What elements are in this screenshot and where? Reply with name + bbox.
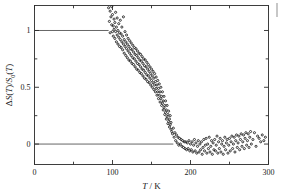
- data-point: [142, 75, 144, 77]
- data-point: [150, 84, 152, 86]
- data-point: [135, 60, 137, 62]
- data-point: [239, 149, 241, 151]
- data-point: [221, 140, 223, 142]
- data-point: [191, 141, 193, 143]
- data-point: [109, 10, 111, 12]
- data-point: [222, 153, 224, 155]
- data-point: [125, 54, 127, 56]
- data-point: [111, 31, 113, 33]
- data-point: [203, 138, 205, 140]
- data-point: [160, 86, 162, 88]
- data-point: [168, 120, 170, 122]
- data-point: [164, 113, 166, 115]
- data-point: [237, 142, 239, 144]
- data-point: [156, 94, 158, 96]
- data-point: [250, 143, 252, 145]
- data-point: [206, 152, 208, 154]
- data-point: [115, 11, 117, 13]
- data-point: [125, 41, 127, 43]
- data-point: [125, 34, 127, 36]
- data-point: [151, 86, 153, 88]
- data-point: [261, 134, 263, 136]
- data-point: [154, 91, 156, 93]
- data-point: [111, 14, 113, 16]
- data-point: [133, 51, 135, 53]
- data-point: [130, 54, 132, 56]
- data-point: [149, 66, 151, 68]
- data-point: [186, 142, 188, 144]
- y-axis-title: ΔS(T)/S0(T): [4, 64, 16, 106]
- data-point: [167, 123, 169, 125]
- data-point: [253, 132, 255, 134]
- data-point: [246, 144, 248, 146]
- data-point: [122, 35, 124, 37]
- data-point: [258, 137, 260, 139]
- y-axis-title-text: ΔS(T)/S0(T): [4, 64, 16, 106]
- data-point: [229, 150, 231, 152]
- data-point: [126, 57, 128, 59]
- y-tick-labels: 00.51: [21, 26, 31, 149]
- data-point: [157, 87, 159, 89]
- data-point: [166, 116, 168, 118]
- data-point: [144, 71, 146, 73]
- data-point: [153, 77, 155, 79]
- data-point: [243, 148, 245, 150]
- data-point: [246, 140, 248, 142]
- data-point: [257, 135, 259, 137]
- data-point: [207, 148, 209, 150]
- data-point: [242, 141, 244, 143]
- data-point: [176, 142, 178, 144]
- data-point: [200, 141, 202, 143]
- scatter-plot: 0100200300 00.51 T / K ΔS(T)/S0(T): [0, 0, 281, 193]
- data-point: [211, 153, 213, 155]
- data-point: [194, 150, 196, 152]
- data-point: [188, 140, 190, 142]
- data-point: [150, 79, 152, 81]
- data-points: [108, 6, 267, 156]
- data-point: [198, 151, 200, 153]
- data-point: [161, 104, 163, 106]
- data-point: [168, 126, 170, 128]
- data-point: [221, 143, 223, 145]
- data-point: [141, 56, 143, 58]
- data-point: [123, 52, 125, 54]
- data-point: [115, 41, 117, 43]
- data-point: [227, 152, 229, 154]
- data-point: [156, 84, 158, 86]
- data-point: [122, 16, 124, 18]
- x-tick-label: 0: [33, 168, 37, 177]
- x-axis-title-text: T / K: [142, 181, 161, 191]
- data-point: [226, 138, 228, 140]
- data-point: [116, 17, 118, 19]
- data-point: [215, 144, 217, 146]
- data-point: [159, 101, 161, 103]
- data-point: [241, 145, 243, 147]
- data-point: [155, 87, 157, 89]
- data-point: [228, 144, 230, 146]
- data-point: [165, 109, 167, 111]
- data-point: [168, 118, 170, 120]
- data-point: [208, 136, 210, 138]
- data-point: [190, 149, 192, 151]
- data-point: [160, 98, 162, 100]
- data-point: [214, 138, 216, 140]
- data-point: [131, 49, 133, 51]
- data-point: [172, 133, 174, 135]
- data-point: [108, 20, 110, 22]
- data-point: [122, 49, 124, 51]
- data-point: [162, 109, 164, 111]
- data-point: [201, 153, 203, 155]
- data-point: [123, 39, 125, 41]
- data-point: [263, 140, 265, 142]
- data-point: [125, 48, 127, 50]
- data-point: [249, 136, 251, 138]
- data-point: [109, 32, 111, 34]
- data-point: [230, 141, 232, 143]
- data-point: [264, 136, 266, 138]
- data-point: [211, 140, 213, 142]
- data-point: [128, 45, 130, 47]
- data-point: [217, 152, 219, 154]
- data-point: [255, 145, 257, 147]
- data-point: [134, 66, 136, 68]
- data-point: [171, 131, 173, 133]
